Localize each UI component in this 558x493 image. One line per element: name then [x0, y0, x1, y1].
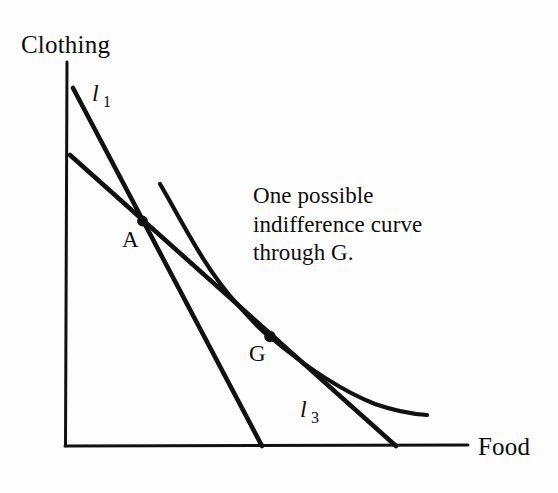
y-axis-label: Clothing — [21, 31, 110, 58]
annotation-line-3: through G. — [253, 240, 354, 265]
budget-line-l1-label-base: l — [92, 80, 99, 106]
point-a-marker — [137, 216, 148, 227]
x-axis-label: Food — [478, 433, 531, 460]
x-axis — [65, 445, 468, 446]
economics-figure: Clothing Food l 1 l 3 A G One possible i… — [0, 0, 558, 493]
annotation-line-1: One possible — [253, 183, 374, 208]
point-g-label: G — [249, 341, 266, 366]
budget-line-l1-label-subscript: 1 — [103, 93, 111, 110]
y-axis — [66, 62, 68, 446]
annotation-line-2: indifference curve — [253, 212, 422, 237]
budget-line-l3-label-base: l — [300, 396, 307, 422]
budget-line-l3-label-subscript: 3 — [311, 409, 319, 426]
indifference-curve-diagram: Clothing Food l 1 l 3 A G One possible i… — [0, 0, 558, 493]
budget-line-l1 — [73, 88, 262, 446]
budget-line-l1-label: l 1 — [92, 80, 111, 110]
annotation-text: One possible indifference curve through … — [253, 183, 422, 265]
point-a-label: A — [122, 227, 139, 252]
point-g-marker — [264, 331, 276, 343]
budget-line-l3-label: l 3 — [300, 396, 319, 426]
